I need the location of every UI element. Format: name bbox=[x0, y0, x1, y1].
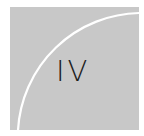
roman-numeral-label: IV bbox=[56, 57, 90, 86]
numeral-tile: IV bbox=[10, 7, 139, 130]
